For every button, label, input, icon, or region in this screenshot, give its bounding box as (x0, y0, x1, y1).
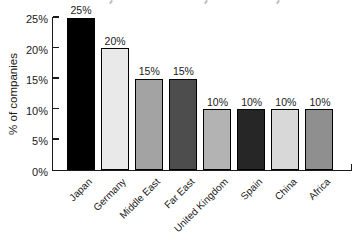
y-axis-tick (53, 47, 59, 49)
cropped-title-remnant (276, 0, 280, 4)
x-tick-label: Far East (162, 176, 197, 211)
bar-japan (67, 18, 95, 171)
bar-value-label: 15% (161, 65, 205, 78)
cropped-title-remnant (204, 0, 208, 4)
y-tick-label: 5% (0, 134, 48, 148)
bar-spain (237, 109, 265, 170)
bar-germany (101, 48, 129, 170)
x-tick-label: Japan (67, 176, 94, 203)
bar-value-label: 20% (93, 35, 137, 48)
x-tick-label: Africa (307, 176, 333, 202)
y-tick-label: 25% (0, 12, 48, 26)
y-tick-label: 10% (0, 104, 48, 118)
y-tick-label: 0% (0, 165, 48, 179)
bar-united-kingdom (203, 109, 231, 170)
bar-far-east (169, 79, 197, 171)
y-tick-label: 20% (0, 43, 48, 57)
y-axis-tick (53, 77, 59, 79)
bar-middle-east (135, 79, 163, 171)
cropped-title-remnant (109, 0, 113, 4)
bar-value-label: 25% (59, 4, 103, 17)
bar-chart: % of companies 25%20%15%10%5%0% 25%20%15… (0, 0, 360, 241)
bar-value-label: 10% (298, 96, 342, 109)
bar-africa (305, 109, 333, 170)
x-axis-end-tick (351, 164, 353, 170)
x-tick-label: Spain (239, 176, 265, 202)
y-axis-tick (53, 138, 59, 140)
bar-china (271, 109, 299, 170)
y-axis-tick (53, 108, 59, 110)
y-tick-label: 15% (0, 73, 48, 87)
x-tick-label: China (272, 176, 298, 202)
